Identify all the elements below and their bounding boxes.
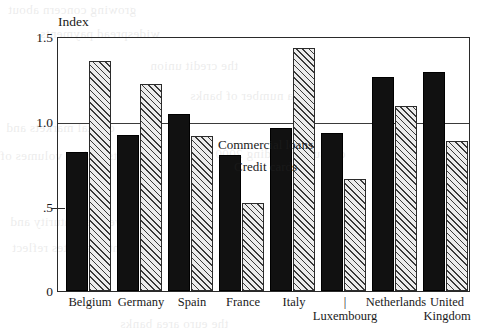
bar-luxembourg-credit-cards[interactable] bbox=[344, 179, 366, 291]
x-label-italy-line1: Italy bbox=[283, 295, 306, 309]
y-tick-label-1.5: 1.5 bbox=[36, 31, 53, 45]
x-label-uk-line1: United bbox=[430, 295, 464, 309]
bar-belgium-credit-cards[interactable] bbox=[89, 61, 111, 291]
bar-spain-commercial-loans[interactable] bbox=[168, 114, 190, 291]
bar-germany-commercial-loans[interactable] bbox=[117, 135, 139, 291]
x-axis-category-labels: Belgium Germany Spain France Italy | Lux… bbox=[57, 295, 470, 334]
x-label-spain-line1: Spain bbox=[178, 295, 206, 309]
bar-france-credit-cards[interactable] bbox=[242, 203, 264, 291]
bar-luxembourg-commercial-loans[interactable] bbox=[321, 133, 343, 291]
x-label-luxembourg-line2: Luxembourg bbox=[305, 309, 385, 323]
bar-united-kingdom-credit-cards[interactable] bbox=[446, 141, 468, 291]
bar-france-commercial-loans[interactable] bbox=[219, 155, 241, 291]
bar-chart-figure: Index 1.5 1.0 .5 0 bbox=[0, 0, 488, 334]
bar-italy-commercial-loans[interactable] bbox=[270, 128, 292, 291]
y-axis-title: Index bbox=[58, 15, 89, 29]
legend-label-commercial-loans: Commercial loans bbox=[218, 138, 313, 151]
bar-united-kingdom-commercial-loans[interactable] bbox=[423, 72, 445, 291]
bar-spain-credit-cards[interactable] bbox=[191, 136, 213, 291]
bar-netherlands-commercial-loans[interactable] bbox=[372, 77, 394, 291]
bar-germany-credit-cards[interactable] bbox=[140, 84, 162, 291]
x-label-uk-line2: Kingdom bbox=[407, 309, 487, 323]
bar-belgium-commercial-loans[interactable] bbox=[66, 152, 88, 291]
bar-netherlands-credit-cards[interactable] bbox=[395, 106, 417, 291]
legend-label-credit-cards: Credit cards bbox=[234, 160, 297, 173]
plot-area: 1.5 1.0 .5 0 bbox=[57, 37, 470, 292]
y-tick-label-1.0: 1.0 bbox=[36, 116, 53, 130]
x-label-united-kingdom: United Kingdom bbox=[407, 295, 487, 323]
